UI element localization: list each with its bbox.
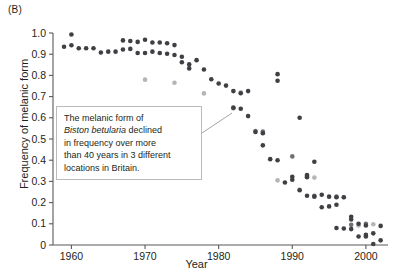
data-point (143, 37, 148, 42)
data-point (334, 202, 339, 207)
data-point (312, 175, 317, 180)
data-point (238, 106, 243, 111)
data-point (224, 83, 229, 88)
data-point (364, 233, 369, 238)
data-point (327, 204, 332, 209)
callout-leader-line (202, 113, 232, 133)
data-point (180, 54, 185, 59)
data-point (319, 192, 324, 197)
data-point (209, 77, 214, 82)
data-point (356, 222, 361, 227)
data-point (165, 51, 170, 56)
callout-line-1: The melanic form of (64, 112, 195, 124)
x-axis-title: Year (0, 258, 393, 270)
data-point (253, 130, 258, 135)
data-point (202, 67, 207, 72)
data-point (290, 177, 295, 182)
data-point (371, 242, 376, 247)
data-point (84, 46, 89, 51)
data-point (143, 51, 148, 56)
data-point (327, 194, 332, 199)
annotation-callout: The melanic form of Biston betularia dec… (56, 106, 202, 180)
y-tick-label: 1.0 (31, 27, 46, 39)
y-axis-title: Frequency of melanic form (18, 39, 30, 209)
data-point (150, 40, 155, 45)
data-point (290, 154, 295, 159)
callout-line-5: locations in Britain. (64, 162, 195, 174)
data-point (275, 178, 280, 183)
data-point (238, 91, 243, 96)
data-point (180, 60, 185, 65)
data-point (172, 81, 177, 86)
y-tick-label: 0.8 (31, 69, 46, 81)
data-point (121, 38, 126, 43)
data-point (165, 41, 170, 46)
data-point (99, 50, 104, 55)
data-point (305, 175, 310, 180)
y-tick-label: 0.1 (31, 217, 46, 229)
data-point (62, 44, 67, 49)
data-point (231, 105, 236, 110)
data-point (364, 223, 369, 228)
data-point (113, 49, 118, 54)
species-name: Biston betularia (64, 125, 126, 135)
data-point (297, 188, 302, 193)
data-point (157, 40, 162, 45)
data-point (128, 39, 133, 44)
y-tick-label: 0.6 (31, 111, 46, 123)
callout-line-2: Biston betularia declined (64, 124, 195, 136)
data-point (378, 238, 383, 243)
data-point (275, 72, 280, 77)
data-point (202, 91, 207, 96)
data-point (143, 77, 148, 82)
data-point (172, 43, 177, 48)
data-point (334, 195, 339, 200)
callout-line-4: than 40 years in 3 different (64, 149, 195, 161)
data-point (312, 194, 317, 199)
y-tick-label: 0.2 (31, 196, 46, 208)
data-point (106, 49, 111, 54)
y-tick-label: 0.3 (31, 175, 46, 187)
y-tick-label: 0.5 (31, 133, 46, 145)
data-point (312, 159, 317, 164)
data-point (319, 205, 324, 210)
data-point (172, 53, 177, 58)
data-point (378, 224, 383, 229)
data-point (334, 226, 339, 231)
callout-line-3: in frequency over more (64, 137, 195, 149)
data-point (216, 81, 221, 86)
data-point (275, 78, 280, 83)
data-point (261, 143, 266, 148)
y-tick-label: 0 (40, 239, 46, 251)
data-point (283, 180, 288, 185)
series-location-2 (231, 106, 368, 227)
data-point (128, 47, 133, 52)
data-point (349, 223, 354, 228)
data-point (349, 227, 354, 232)
data-point (231, 89, 236, 94)
data-point (187, 62, 192, 67)
data-point (91, 46, 96, 51)
data-point (135, 40, 140, 45)
data-point (157, 51, 162, 56)
data-point (246, 114, 251, 119)
data-point (76, 46, 81, 51)
data-point (371, 231, 376, 236)
data-point (194, 58, 199, 63)
y-tick-label: 0.4 (31, 154, 46, 166)
data-point (342, 226, 347, 231)
data-point (69, 32, 74, 37)
data-point (69, 43, 74, 48)
y-tick-label: 0.9 (31, 48, 46, 60)
data-point (342, 195, 347, 200)
y-tick-label: 0.7 (31, 90, 46, 102)
data-point (121, 47, 126, 52)
data-point (261, 131, 266, 136)
data-point (268, 157, 273, 162)
data-point (246, 89, 251, 94)
data-point (349, 217, 354, 222)
figure-panel-b: (B) 00.10.20.30.40.50.60.70.80.91.019601… (0, 0, 393, 276)
data-point (187, 66, 192, 71)
data-point (275, 158, 280, 163)
data-point (150, 49, 155, 54)
